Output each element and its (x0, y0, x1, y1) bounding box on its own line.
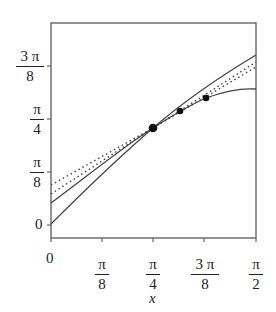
solid-line-steep (51, 55, 256, 224)
x-tick-label-0: 0 (46, 250, 54, 267)
dotted-line-1 (51, 62, 256, 185)
y-tick-pi8-num: π (30, 155, 44, 173)
y-tick-label-3pi8: 3 π 8 (16, 49, 44, 84)
solid-curve (51, 89, 256, 203)
x-tick-pi2-num: π (249, 257, 263, 275)
x-axis-label: x (149, 290, 156, 307)
x-tick-3pi8-den: 8 (191, 275, 219, 292)
y-tick-pi8-den: 8 (30, 173, 44, 190)
y-tick-label-0: 0 (35, 216, 43, 233)
x-tick-pi2-den: 2 (249, 275, 263, 292)
x-tick-pi8-den: 8 (95, 275, 109, 292)
x-tick-pi4-num: π (146, 257, 160, 275)
y-tick-label-pi4: π 4 (30, 102, 44, 137)
y-tick-pi4-num: π (30, 102, 44, 120)
y-tick-pi4-den: 4 (30, 120, 44, 137)
x-tick-pi8-num: π (95, 257, 109, 275)
data-point-1 (149, 124, 158, 133)
x-tick-3pi8-num: 3 π (191, 257, 219, 275)
x-tick-label-pi2: π 2 (249, 257, 263, 292)
y-tick-label-pi8: π 8 (30, 155, 44, 190)
x-tick-label-pi4: π 4 (146, 257, 160, 292)
data-point-3 (203, 95, 210, 102)
y-tick-3pi8-num: 3 π (16, 49, 44, 67)
y-tick-3pi8-den: 8 (16, 67, 44, 84)
x-tick-label-pi8: π 8 (95, 257, 109, 292)
data-point-2 (177, 108, 184, 115)
x-tick-label-3pi8: 3 π 8 (191, 257, 219, 292)
